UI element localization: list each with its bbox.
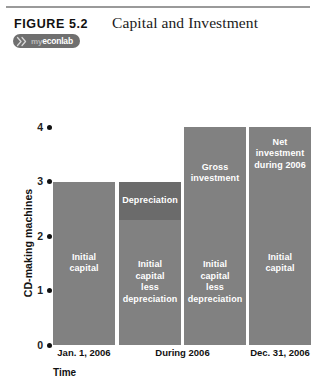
figure-header: FIGURE 5.2 Capital and Investment — [14, 14, 310, 36]
figure-title: Capital and Investment — [112, 14, 258, 32]
bar-dec-31-2006[interactable]: Net investment during 2006Initial capita… — [249, 127, 311, 345]
bar-segment-initial-capital[interactable]: Initial capital — [249, 182, 311, 346]
bar-segment-label: Depreciation — [120, 195, 180, 207]
bar-during-2006-gross-investment[interactable]: Gross investmentInitial capital less dep… — [184, 127, 246, 345]
myeconlab-badge[interactable]: my econlab — [13, 34, 80, 48]
bar-segment-label: Gross investment — [189, 162, 242, 185]
x-axis-label-2: Dec. 31, 2006 — [220, 347, 320, 358]
bar-during-2006-depreciation[interactable]: DepreciationInitial capital less depreci… — [119, 182, 181, 346]
figure-number: FIGURE 5.2 — [14, 17, 88, 31]
myeconlab-x-mark-icon — [16, 36, 29, 47]
bar-segment-initial-capital-less-depreciation[interactable]: Initial capital less depreciation — [184, 220, 246, 345]
bar-segment-label: Initial capital less depreciation — [186, 259, 245, 305]
badge-name: econlab — [42, 36, 73, 46]
bar-segment-depreciation[interactable]: Depreciation — [119, 182, 181, 220]
bar-segment-net-investment-during-2006[interactable]: Net investment during 2006 — [249, 127, 311, 182]
x-axis-tick-labels: Jan. 1, 2006During 2006Dec. 31, 2006 — [0, 347, 316, 363]
bar-group: Initial capitalDepreciationInitial capit… — [0, 55, 316, 345]
bar-segment-initial-capital[interactable]: Initial capital — [53, 182, 115, 346]
bar-segment-label: Initial capital — [263, 252, 296, 275]
chart-plot-area: 01234 CD-making machines Initial capital… — [0, 55, 316, 375]
badge-prefix: my — [31, 37, 42, 46]
header-divider — [6, 6, 310, 8]
bar-jan-1-2006[interactable]: Initial capital — [53, 182, 115, 346]
bar-segment-label: Net investment during 2006 — [252, 137, 308, 172]
bar-segment-initial-capital-less-depreciation[interactable]: Initial capital less depreciation — [119, 220, 181, 345]
bar-segment-gross-investment[interactable]: Gross investment — [184, 127, 246, 220]
x-axis-title: Time — [53, 367, 76, 378]
bar-segment-label: Initial capital less depreciation — [121, 259, 180, 305]
bar-segment-label: Initial capital — [67, 252, 100, 275]
